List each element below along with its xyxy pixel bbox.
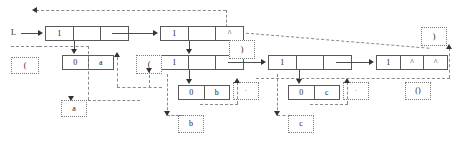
link-c1-c2-head [153, 30, 158, 36]
feedback-arrow-head [32, 7, 37, 13]
route-a-head [68, 96, 74, 101]
link-c1-c2 [112, 33, 154, 34]
cell-field: 0 [63, 56, 89, 69]
route-dot3-horz [310, 104, 348, 105]
route-a-horz [88, 100, 140, 101]
route-right-head [446, 44, 452, 49]
leaf-box-empty-list: () [405, 82, 431, 100]
cell-field [189, 27, 217, 40]
cons-cell-c2: 1 ^ [160, 26, 244, 41]
route-paren2-head [146, 68, 152, 73]
cons-cell-c8: 0 c [288, 85, 340, 100]
route-right-horz [256, 78, 450, 79]
box-pointer-diagram: L 1 1 ^ 1 1 1 ^ ^ [0, 0, 459, 143]
cell-field: 0 [179, 86, 205, 99]
link-c4-c5-head [369, 59, 374, 65]
route-right-vert [449, 48, 450, 78]
route-c-head [274, 111, 280, 116]
route-a-vert [88, 46, 89, 100]
link-c3-c7-head [186, 79, 192, 84]
leaf-box-close-paren-1: ) [229, 40, 255, 59]
link-c2-c3-head [186, 49, 192, 54]
route-dot1-horz [117, 87, 162, 88]
link-c4-c8-head [296, 79, 302, 84]
cell-field [189, 56, 217, 69]
link-c3-c7 [189, 70, 190, 79]
route-dot3-vert [347, 82, 348, 104]
diagonal-dashed-link [226, 31, 429, 49]
route-dot2-head [234, 78, 240, 83]
leaf-box-b: b [178, 115, 204, 133]
cell-field: 1 [377, 56, 401, 69]
route-dot1-head [114, 52, 120, 57]
cell-field: ^ [216, 27, 243, 40]
cons-cell-c5: 1 ^ ^ [376, 55, 448, 70]
cell-field: 0 [289, 86, 315, 99]
link-c4-c5 [336, 62, 370, 63]
cell-field: c [315, 86, 340, 99]
cell-field: a [89, 56, 114, 69]
route-b-head [164, 111, 170, 116]
leaf-box-close-paren-2: ) [421, 27, 447, 46]
cell-field: ^ [424, 56, 447, 69]
cell-field: 1 [269, 56, 297, 69]
link-c3-c4 [228, 62, 262, 63]
cell-field [74, 27, 102, 40]
cell-field [297, 56, 325, 69]
cell-field: ^ [401, 56, 425, 69]
root-label: L [11, 29, 16, 37]
link-c3-c4-head [261, 59, 266, 65]
cell-field: 1 [161, 27, 189, 40]
root-arrow-head [38, 30, 43, 36]
route-paren1-top [11, 46, 39, 47]
leaf-box-open-paren-1: ( [11, 57, 39, 74]
route-b-vert [167, 74, 168, 115]
route-dot2-horz [200, 104, 238, 105]
link-c1-c6-head [71, 49, 77, 54]
cell-field: b [205, 86, 230, 99]
cell-field: 1 [46, 27, 74, 40]
route-a-top [39, 46, 89, 47]
route-c-vert [277, 74, 278, 115]
route-dot1-vert [117, 57, 118, 87]
cons-cell-c7: 0 b [178, 85, 230, 100]
leaf-box-a: a [61, 100, 87, 117]
route-dot2-vert [237, 82, 238, 104]
leaf-box-c: c [288, 115, 314, 133]
feedback-arrow-top [36, 10, 226, 11]
cell-field: 1 [161, 56, 189, 69]
